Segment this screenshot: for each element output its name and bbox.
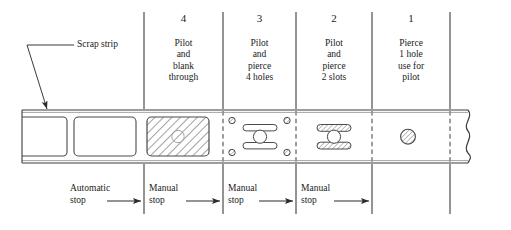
- station-3-features: [229, 117, 290, 155]
- station-number-1: 1: [372, 13, 450, 24]
- station-operation-3: Pilot and pierce 4 holes: [223, 38, 296, 84]
- station-4-blank: [147, 117, 209, 156]
- stop-label-station-4: Manual stop: [149, 183, 178, 206]
- scrap-strip-leader: [27, 45, 74, 109]
- strip-layout-figure: 4 3 2 1 Pilot and blank through Pilot an…: [0, 0, 511, 230]
- station-operation-1: Pierce 1 hole use for pilot: [372, 38, 450, 84]
- scrap-skeleton-openings: [22, 117, 136, 156]
- station-operation-2: Pilot and pierce 2 slots: [296, 38, 372, 84]
- scrap-strip-label: Scrap strip: [77, 39, 118, 50]
- stop-label-automatic: Automatic stop: [70, 183, 110, 206]
- station-number-2: 2: [296, 13, 372, 24]
- stop-label-station-3: Manual stop: [228, 183, 257, 206]
- station-2-features: [317, 125, 351, 150]
- station-number-3: 3: [223, 13, 296, 24]
- station-number-4: 4: [144, 13, 223, 24]
- station-operation-4: Pilot and blank through: [144, 38, 223, 84]
- station-1-features: [401, 129, 416, 144]
- stop-label-station-2: Manual stop: [301, 183, 330, 206]
